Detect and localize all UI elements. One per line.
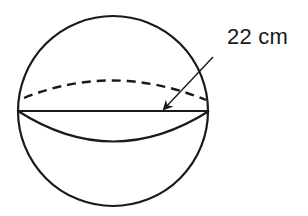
- equator-front: [18, 111, 209, 142]
- sphere-diagram: 22 cm: [0, 0, 308, 216]
- equator-back-dashed: [24, 80, 206, 100]
- measurement-arrow: [164, 57, 213, 109]
- measurement-label: 22 cm: [227, 24, 288, 50]
